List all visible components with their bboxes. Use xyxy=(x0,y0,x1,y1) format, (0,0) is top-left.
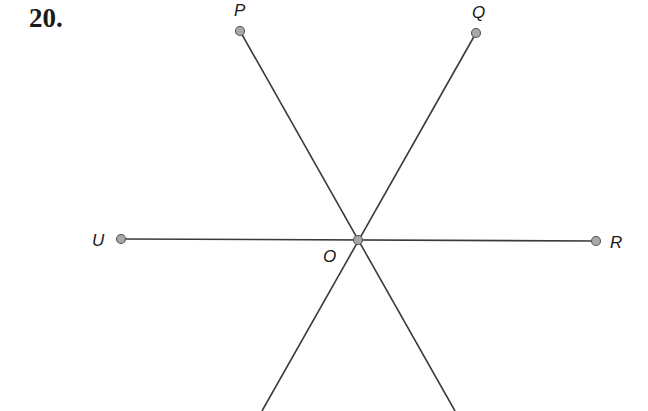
label-O: O xyxy=(323,247,336,266)
point-R xyxy=(592,237,601,246)
point-O xyxy=(354,236,363,245)
point-U xyxy=(117,235,126,244)
label-R: R xyxy=(610,233,622,252)
label-U: U xyxy=(92,231,105,250)
point-P xyxy=(236,27,245,36)
ray-diagram: P Q U R O xyxy=(0,0,648,411)
label-Q: Q xyxy=(472,3,485,22)
segment-PO-extended xyxy=(240,31,455,411)
point-Q xyxy=(472,29,481,38)
label-P: P xyxy=(234,1,246,20)
segment-QO-extended xyxy=(262,33,476,411)
